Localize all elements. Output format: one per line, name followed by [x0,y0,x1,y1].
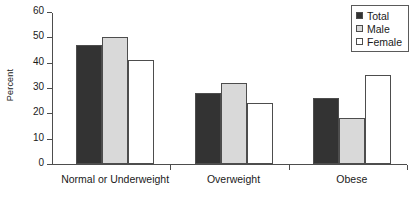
y-axis-tick-label: 60 [33,5,44,16]
bar-group: Overweight [195,13,273,164]
legend-item-label: Male [367,23,390,35]
legend-item-total[interactable]: Total [356,9,402,22]
x-axis-category-label: Obese [336,173,367,185]
y-axis-tick: 50 [47,37,52,38]
y-axis-tick-label: 50 [33,30,44,41]
legend-item-label: Female [367,36,402,48]
y-axis-tick-label: 0 [38,157,44,168]
y-axis-tick: 0 [47,164,52,165]
y-axis-tick-label: 20 [33,106,44,117]
y-axis-label-text: Percent [5,69,15,101]
y-axis-tick: 40 [47,63,52,64]
bar-female-obese [365,75,391,164]
y-axis-tick: 60 [47,12,52,13]
legend-swatch-icon [356,25,363,32]
x-axis-line [52,164,407,165]
x-axis-tick [170,165,171,170]
y-axis-tick: 20 [47,113,52,114]
legend-swatch-icon [356,12,363,19]
legend-item-female[interactable]: Female [356,35,402,48]
y-axis-label: Percent [2,0,18,170]
legend-item-label: Total [367,10,389,22]
bar-female-normal-or-underweight [128,60,154,164]
bar-total-obese [313,98,339,164]
y-axis-line [52,13,53,165]
y-axis-tick-label: 10 [33,132,44,143]
bar-total-normal-or-underweight [76,45,102,164]
chart-legend: TotalMaleFemale [351,5,409,52]
bar-group: Normal or Underweight [76,13,154,164]
bar-female-overweight [247,103,273,164]
x-axis-category-label: Overweight [207,173,260,185]
y-axis-tick: 30 [47,88,52,89]
bar-male-obese [339,118,365,164]
y-axis-tick-label: 30 [33,81,44,92]
bar-male-normal-or-underweight [102,37,128,164]
x-axis-tick [289,165,290,170]
bar-male-overweight [221,83,247,164]
y-axis-tick: 10 [47,139,52,140]
x-axis-category-label: Normal or Underweight [61,173,169,185]
bar-chart: Percent 6050403020100 Normal or Underwei… [0,0,415,202]
x-axis-tick [407,165,408,170]
legend-swatch-icon [356,38,363,45]
bar-total-overweight [195,93,221,164]
y-axis-tick-label: 40 [33,56,44,67]
legend-item-male[interactable]: Male [356,22,402,35]
